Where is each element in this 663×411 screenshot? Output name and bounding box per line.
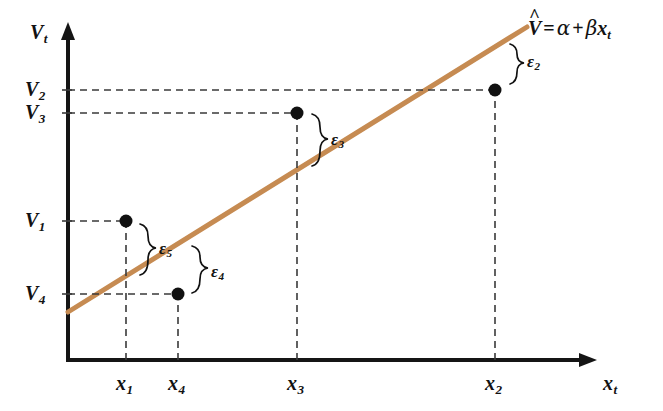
x-tick-label-x1: x1 — [116, 373, 133, 393]
residual-label-eps4: ε4 — [211, 263, 224, 280]
residual-label-eps2: ε2 — [527, 53, 540, 70]
x-tick-x1-sub: 1 — [127, 382, 134, 397]
x-tick-x3-main: x — [287, 372, 297, 394]
x-tick-label-x4: x4 — [168, 373, 185, 393]
y-tick-v3-sub: 3 — [39, 111, 46, 126]
y-tick-v2-sub: 2 — [39, 88, 46, 103]
eps5-main: ε — [159, 239, 166, 258]
equation-equals: = — [541, 17, 556, 39]
residual-label-eps3: ε3 — [331, 131, 344, 148]
y-tick-v1-main: V — [25, 209, 38, 231]
y-tick-v3-main: V — [25, 101, 38, 123]
brace-eps4 — [192, 246, 208, 293]
data-point-2 — [489, 84, 502, 97]
y-axis-label-sub: t — [44, 31, 48, 46]
equation-x-sub: t — [607, 28, 611, 42]
eps2-sub: 2 — [534, 60, 540, 72]
equation-x: x — [597, 17, 607, 39]
y-tick-label-v2: V2 — [25, 79, 45, 99]
y-tick-label-v4: V4 — [25, 283, 45, 303]
x-axis-label: xt — [603, 373, 617, 393]
eps2-main: ε — [527, 52, 534, 71]
equation-beta: β — [586, 16, 598, 40]
y-axis-label-main: V — [30, 21, 43, 43]
plot-canvas — [0, 0, 663, 411]
hat-accent: ^ — [529, 6, 540, 25]
data-point-1 — [120, 215, 133, 228]
equation-alpha: α — [557, 16, 571, 40]
x-axis-arrowhead — [579, 353, 597, 367]
equation-plus: + — [570, 17, 585, 39]
regression-equation: ^V=α+βxt — [528, 18, 611, 38]
y-axis-label: Vt — [30, 22, 48, 42]
x-tick-x2-main: x — [485, 372, 495, 394]
residual-label-eps5: ε5 — [159, 240, 172, 257]
x-axis-label-sub: t — [614, 382, 618, 397]
x-axis-label-main: x — [603, 372, 613, 394]
x-tick-x2-sub: 2 — [496, 382, 503, 397]
eps3-main: ε — [331, 130, 338, 149]
x-tick-label-x2: x2 — [485, 373, 502, 393]
eps3-sub: 3 — [338, 138, 344, 150]
data-point-4 — [172, 288, 185, 301]
x-tick-x1-main: x — [116, 372, 126, 394]
regression-diagram: Vt xt V2 V3 V1 V4 x1 x4 x3 x2 ε2 ε3 ε5 ε… — [0, 0, 663, 411]
brace-eps2 — [510, 44, 524, 84]
data-point-3 — [291, 107, 304, 120]
y-axis-arrowhead — [61, 22, 75, 40]
y-tick-v4-main: V — [25, 282, 38, 304]
y-tick-v1-sub: 1 — [39, 219, 46, 234]
x-tick-x4-sub: 4 — [179, 382, 186, 397]
y-tick-label-v3: V3 — [25, 102, 45, 122]
equation-v-hat: ^V — [528, 18, 541, 38]
x-tick-label-x3: x3 — [287, 373, 304, 393]
y-tick-v2-main: V — [25, 78, 38, 100]
x-tick-x4-main: x — [168, 372, 178, 394]
eps4-sub: 4 — [218, 270, 224, 282]
eps5-sub: 5 — [166, 247, 172, 259]
x-tick-x3-sub: 3 — [298, 382, 305, 397]
y-tick-label-v1: V1 — [25, 210, 45, 230]
eps4-main: ε — [211, 262, 218, 281]
y-tick-v4-sub: 4 — [39, 292, 46, 307]
